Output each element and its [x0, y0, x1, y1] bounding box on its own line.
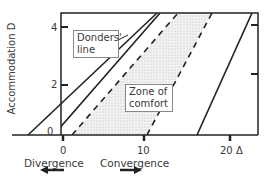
convergence-label: Convergence: [100, 158, 169, 169]
donders-label-line1: Donders': [77, 32, 115, 44]
zone-of-comfort-label: Zone of comfort: [125, 84, 173, 112]
donders-label-line2: line: [77, 44, 115, 56]
y-tick-label-2: 2: [51, 80, 57, 90]
x-tick-label-20: 20 Δ: [220, 146, 243, 156]
y-tick-label-4: 4: [51, 23, 57, 33]
x-tick-label-0: 0: [60, 146, 66, 156]
divergence-label: Divergence: [24, 158, 84, 169]
y-axis-label: Accommodation D: [6, 25, 17, 115]
y-tick-label-0: 0: [47, 127, 53, 137]
zone-label-line1: Zone of: [129, 86, 169, 98]
zone-label-line2: comfort: [129, 98, 169, 110]
right-limit-line: [197, 13, 252, 135]
x-tick-label-10: 10: [137, 146, 150, 156]
donders-line-label: Donders' line: [73, 30, 119, 58]
